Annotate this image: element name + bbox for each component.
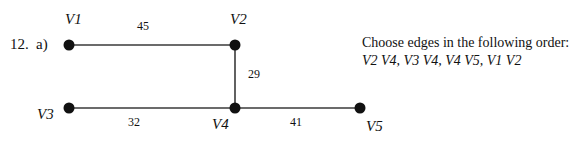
instructions: Choose edges in the following order: V2 … [362,34,569,70]
vertex-v4 [230,103,241,114]
edge-weight-v1-v2: 45 [137,19,149,34]
vertex-v5 [355,103,366,114]
vertex-v1 [64,40,75,51]
vertex-label-v3: V3 [37,106,54,123]
edge-weight-v2-v4: 29 [248,67,260,82]
edge-weight-v4-v5: 41 [290,115,302,130]
edge-weight-v3-v4: 32 [128,115,140,130]
vertex-v2 [230,40,241,51]
vertex-label-v5: V5 [366,118,383,135]
instructions-edge-order: V2 V4, V3 V4, V4 V5, V1 V2 [362,52,569,70]
vertex-label-v2: V2 [230,11,247,28]
instructions-line-1: Choose edges in the following order: [362,34,569,52]
vertex-label-v1: V1 [65,11,82,28]
vertex-label-v4: V4 [212,116,229,133]
vertex-v3 [64,103,75,114]
